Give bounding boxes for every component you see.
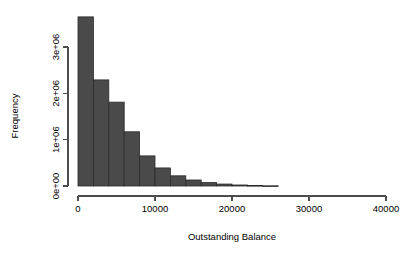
histogram-bar bbox=[140, 156, 155, 186]
y-axis-tick-labels: 0e+001e+062e+063e+06 bbox=[50, 34, 61, 200]
y-axis-tick-label: 2e+06 bbox=[50, 80, 61, 107]
histogram-bar bbox=[155, 168, 170, 186]
histogram-bar bbox=[201, 183, 216, 186]
y-axis-tick-label: 0e+00 bbox=[50, 173, 61, 200]
y-axis-title: Frequency bbox=[9, 93, 20, 138]
x-axis: 010000200003000040000 bbox=[75, 196, 399, 214]
y-axis-ticks bbox=[63, 47, 68, 186]
x-axis-tick-label: 10000 bbox=[142, 203, 168, 214]
bars-group bbox=[78, 17, 278, 187]
y-axis: 0e+001e+062e+063e+06 bbox=[50, 34, 68, 200]
histogram-bar bbox=[124, 132, 139, 186]
x-axis-tick-label: 40000 bbox=[373, 203, 399, 214]
histogram-bar bbox=[109, 102, 124, 186]
histogram-canvas: 010000200003000040000 0e+001e+062e+063e+… bbox=[0, 0, 416, 253]
x-axis-title: Outstanding Balance bbox=[188, 231, 276, 242]
x-axis-tick-label: 20000 bbox=[219, 203, 245, 214]
histogram-bar bbox=[186, 180, 201, 186]
x-axis-tick-labels: 010000200003000040000 bbox=[75, 203, 399, 214]
histogram-bar bbox=[247, 186, 262, 187]
x-axis-ticks bbox=[78, 196, 386, 201]
x-axis-tick-label: 30000 bbox=[296, 203, 322, 214]
histogram-bar bbox=[78, 17, 93, 186]
y-axis-tick-label: 1e+06 bbox=[50, 126, 61, 153]
x-axis-tick-label: 0 bbox=[75, 203, 80, 214]
histogram-bar bbox=[93, 80, 108, 186]
histogram-bar bbox=[232, 185, 247, 186]
y-axis-tick-label: 3e+06 bbox=[50, 34, 61, 61]
histogram-bar bbox=[170, 176, 185, 186]
histogram-plot: 010000200003000040000 0e+001e+062e+063e+… bbox=[0, 0, 416, 253]
histogram-bar bbox=[263, 186, 278, 187]
histogram-bar bbox=[217, 184, 232, 186]
